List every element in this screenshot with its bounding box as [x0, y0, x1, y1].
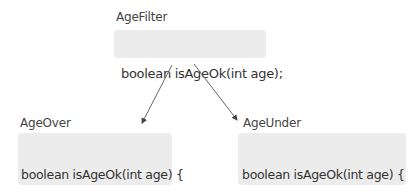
node-title-ageover: AgeOver — [20, 116, 71, 130]
node-title-ageunder: AgeUnder — [243, 116, 301, 130]
node-title-agefilter: AgeFilter — [116, 10, 167, 24]
node-box-agefilter: boolean isAgeOk(int age); — [114, 30, 266, 58]
node-box-ageover: boolean isAgeOk(int age) { return (age >… — [18, 133, 172, 185]
code-line: boolean isAgeOk(int age); — [121, 66, 262, 81]
node-box-ageunder: boolean isAgeOk(int age) { return (age <… — [238, 133, 406, 185]
code-line: boolean isAgeOk(int age) { — [242, 167, 402, 182]
code-line: boolean isAgeOk(int age) { — [21, 167, 168, 182]
